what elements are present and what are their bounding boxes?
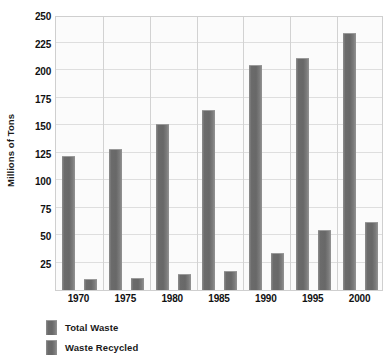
chart-legend: Total WasteWaste Recycled [46, 318, 286, 358]
bar-1985-total-waste [202, 110, 215, 290]
bar-1990-total-waste [249, 65, 262, 291]
x-tick-label-1990: 1990 [255, 293, 276, 304]
legend-swatch-icon [46, 340, 57, 355]
x-tick-label-1985: 1985 [208, 293, 229, 304]
bar-group-1995 [290, 17, 337, 290]
bar-1980-waste-recycled [178, 274, 191, 291]
bar-1990-waste-recycled [271, 253, 284, 290]
bar-2000-waste-recycled [365, 222, 378, 290]
bar-1975-total-waste [109, 149, 122, 290]
bar-1980-total-waste [156, 124, 169, 290]
x-tick-label-2000: 2000 [349, 293, 370, 304]
y-tick-label-250: 250 [35, 11, 51, 22]
bar-1985-waste-recycled [224, 271, 237, 290]
y-axis-title: Millions of Tons [0, 0, 22, 300]
y-tick-label-125: 125 [35, 148, 51, 159]
y-tick-label-150: 150 [35, 121, 51, 132]
y-tick-label-25: 25 [40, 258, 51, 269]
legend-label: Waste Recycled [65, 342, 138, 353]
bar-group-2000 [337, 17, 383, 290]
y-tick-label-100: 100 [35, 176, 51, 187]
x-axis-tick-labels: 1970197519801985199019952000 [55, 293, 383, 313]
y-tick-label-175: 175 [35, 93, 51, 104]
y-axis-title-text: Millions of Tons [6, 113, 17, 186]
bar-group-1980 [150, 17, 197, 290]
x-tick-label-1995: 1995 [302, 293, 323, 304]
legend-swatch-icon [46, 320, 57, 335]
bar-1970-waste-recycled [84, 279, 97, 290]
legend-label: Total Waste [65, 322, 118, 333]
bar-1995-waste-recycled [318, 230, 331, 291]
bar-1970-total-waste [62, 156, 75, 290]
y-tick-label-50: 50 [40, 231, 51, 242]
y-tick-label-200: 200 [35, 66, 51, 77]
bar-1975-waste-recycled [131, 278, 144, 290]
legend-item-waste-recycled: Waste Recycled [46, 338, 286, 356]
bar-group-1990 [243, 17, 290, 290]
bar-group-1975 [103, 17, 150, 290]
x-tick-label-1980: 1980 [161, 293, 182, 304]
x-tick-label-1970: 1970 [68, 293, 89, 304]
plot-area [55, 16, 383, 291]
x-tick-label-1975: 1975 [115, 293, 136, 304]
y-tick-label-75: 75 [40, 203, 51, 214]
legend-item-total-waste: Total Waste [46, 318, 286, 336]
bar-1995-total-waste [296, 58, 309, 290]
y-axis-tick-labels: 255075100125150175200225250 [20, 16, 54, 291]
bar-group-1985 [197, 17, 244, 290]
bar-chart: Millions of Tons 25507510012515017520022… [0, 0, 389, 364]
y-tick-label-225: 225 [35, 38, 51, 49]
bar-group-1970 [56, 17, 103, 290]
bar-2000-total-waste [343, 33, 356, 290]
